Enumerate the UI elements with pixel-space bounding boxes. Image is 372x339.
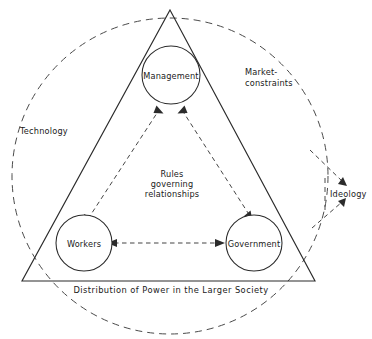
ideology-arrow-lower-line (312, 202, 342, 228)
node-government-label: Government (228, 239, 281, 249)
arrowhead-to-management-left (154, 106, 164, 114)
env-label-market-constraints-line-1: Market- (245, 67, 278, 77)
diagram-canvas: Management Workers Government Rules gove… (0, 0, 372, 339)
arrowhead-ideology-lower (338, 198, 346, 207)
arrow-management-government-line (182, 110, 250, 216)
arrowhead-to-government-horizontal (215, 239, 225, 247)
node-workers-label: Workers (67, 239, 101, 249)
arrowhead-to-management-right (178, 106, 188, 114)
env-label-market-constraints-line-2: constraints (245, 78, 293, 88)
env-label-technology: Technology (19, 126, 68, 136)
ideology-arrow-upper-line (310, 150, 343, 182)
caption-distribution-of-power: Distribution of Power in the Larger Soci… (73, 285, 268, 295)
node-management-label: Management (143, 71, 199, 81)
env-label-ideology: Ideology (330, 189, 367, 199)
center-text-line-3: relationships (145, 189, 199, 199)
center-text-line-1: Rules (161, 169, 184, 179)
center-text-line-2: governing (151, 179, 194, 189)
arrow-workers-management-line (88, 110, 159, 219)
systems-model-diagram: Management Workers Government Rules gove… (0, 0, 372, 339)
